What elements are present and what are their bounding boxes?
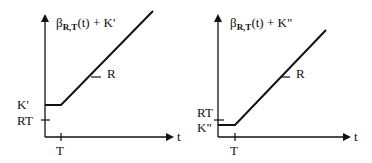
left-rt-label: RT [17, 113, 33, 128]
right-rt-label: RT [197, 105, 213, 120]
diagram-canvas: βR,T(t) + K' R K' RT T t βR,T(t) + K" R … [0, 0, 372, 163]
right-curve [218, 30, 326, 125]
right-t-label: T [230, 143, 238, 158]
right-slope-label: R [296, 66, 305, 81]
right-k-label: K" [197, 120, 212, 135]
left-x-axis-label: t [177, 129, 181, 144]
left-title: βR,T(t) + K' [56, 15, 115, 32]
right-diagram: βR,T(t) + K" R RT K" T t [197, 15, 358, 158]
left-k-label: K' [17, 97, 29, 112]
left-diagram: βR,T(t) + K' R K' RT T t [17, 11, 181, 158]
right-title: βR,T(t) + K" [230, 15, 292, 32]
right-x-axis-label: t [354, 129, 358, 144]
left-t-label: T [56, 143, 64, 158]
left-slope-label: R [107, 66, 116, 81]
